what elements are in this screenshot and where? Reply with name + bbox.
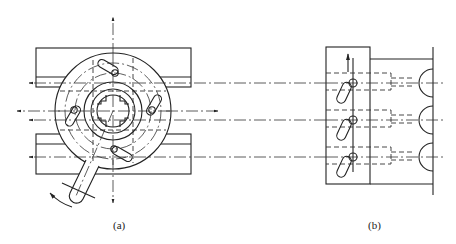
panel-a-label: (a) [113,219,125,231]
panel-a [17,17,218,207]
diagram-canvas [0,0,456,244]
panel-b-label: (b) [368,219,381,231]
